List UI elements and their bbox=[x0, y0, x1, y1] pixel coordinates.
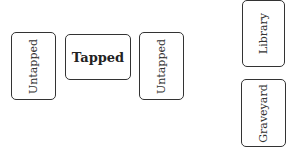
card-tapped[interactable]: Tapped bbox=[65, 34, 131, 80]
graveyard-label: Graveyard bbox=[257, 84, 270, 142]
card-untapped-2[interactable]: Untapped bbox=[139, 32, 184, 100]
library-label: Library bbox=[257, 13, 270, 54]
card-label: Untapped bbox=[155, 39, 168, 94]
graveyard-zone[interactable]: Graveyard bbox=[241, 79, 286, 147]
library-zone[interactable]: Library bbox=[242, 0, 285, 67]
card-untapped-1[interactable]: Untapped bbox=[11, 32, 56, 100]
card-label: Tapped bbox=[72, 50, 124, 65]
card-label: Untapped bbox=[27, 39, 40, 94]
